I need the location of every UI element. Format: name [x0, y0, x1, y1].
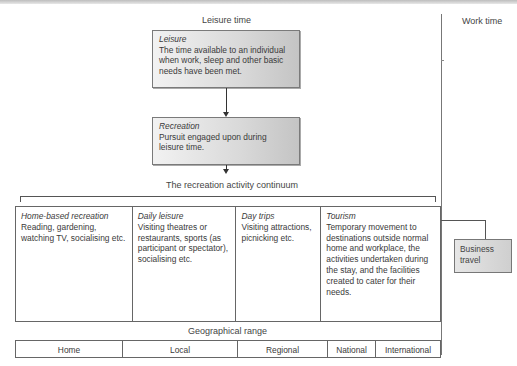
- leisure-time-header: Leisure time: [202, 15, 251, 25]
- recreation-box-title: Recreation: [159, 121, 293, 132]
- leisure-work-divider: [441, 14, 442, 355]
- arrow-leisure-to-recreation: [226, 88, 227, 112]
- continuum-label: The recreation activity continuum: [166, 180, 298, 190]
- leisure-box: Leisure The time available to an individ…: [152, 30, 300, 88]
- activity-title: Tourism: [326, 211, 435, 222]
- activity-continuum-row: Home-based recreation Reading, gardening…: [15, 206, 441, 322]
- leisure-box-text: The time available to an individual when…: [159, 45, 285, 76]
- leisure-box-title: Leisure: [159, 34, 293, 45]
- spacer: [15, 322, 16, 340]
- continuum-bracket: [20, 196, 436, 197]
- divider-tick: [441, 60, 444, 61]
- recreation-box-text: Pursuit engaged upon during leisure time…: [159, 132, 267, 153]
- activity-title: Day trips: [241, 211, 315, 222]
- activity-daily-leisure: Daily leisure Visiting theatres or resta…: [133, 207, 237, 321]
- activity-title: Daily leisure: [138, 211, 231, 222]
- bracket-left-end: [20, 196, 21, 202]
- activity-text: Temporary movement to destinations outsi…: [326, 222, 428, 297]
- activity-day-trips: Day trips Visiting attractions, picnicki…: [236, 207, 321, 321]
- business-travel-connector: [441, 220, 485, 221]
- range-home: Home: [16, 341, 123, 357]
- work-time-header: Work time: [462, 16, 502, 26]
- activity-text: Visiting theatres or restaurants, sports…: [138, 222, 228, 264]
- geographical-range-row: Home Local Regional National Internation…: [15, 340, 441, 358]
- activity-text: Visiting attractions, picnicking etc.: [241, 222, 311, 243]
- activity-home-based: Home-based recreation Reading, gardening…: [16, 207, 133, 321]
- range-local: Local: [123, 341, 238, 357]
- page-top-edge: [0, 0, 517, 4]
- business-travel-box: Business travel: [454, 239, 512, 273]
- range-international: International: [376, 341, 440, 357]
- business-travel-connector-down: [485, 220, 486, 239]
- range-regional: Regional: [238, 341, 328, 357]
- activity-title: Home-based recreation: [21, 211, 127, 222]
- geographical-range-label: Geographical range: [188, 326, 267, 336]
- arrowhead-icon: [223, 169, 229, 174]
- bracket-right-end: [435, 196, 436, 202]
- recreation-box: Recreation Pursuit engaged upon during l…: [152, 117, 300, 165]
- activity-text: Reading, gardening, watching TV, sociali…: [21, 222, 125, 243]
- range-national: National: [328, 341, 376, 357]
- activity-tourism: Tourism Temporary movement to destinatio…: [321, 207, 441, 321]
